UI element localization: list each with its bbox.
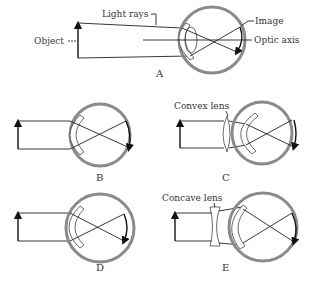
object-label: Object [34, 36, 64, 46]
lens-ray-bottom [229, 145, 246, 148]
cornea [241, 113, 258, 154]
concave-lens-leader-line [214, 203, 215, 207]
light-ray-top [78, 23, 182, 28]
panel-b-label: B [96, 172, 103, 183]
light-ray-bottom [78, 56, 190, 58]
convex-lens-label: Convex lens [174, 101, 229, 111]
refracted-ray-2 [243, 213, 292, 243]
refracted-ray-1 [246, 124, 294, 147]
panel-d: D [18, 194, 134, 273]
panel-a-label: A [155, 68, 164, 79]
panel-c-label: C [222, 172, 230, 183]
refracted-ray-2 [246, 120, 292, 145]
panel-c: Convex lens C [174, 101, 296, 183]
panel-b: B [18, 104, 130, 183]
lens-ray-top [229, 121, 246, 124]
light-rays-label: Light rays [102, 9, 149, 19]
image-arrow-icon [294, 120, 296, 147]
panel-a: Object Light rays Image Optic axis A [34, 7, 300, 79]
panel-e-label: E [222, 262, 229, 273]
eyeball [66, 194, 134, 262]
eyeball [229, 193, 297, 261]
concave-lens-label: Concave lens [162, 193, 223, 203]
image-arrow-icon [237, 27, 242, 52]
refracted-ray-1 [243, 209, 294, 242]
optic-axis-label: Optic axis [254, 35, 300, 45]
light-rays-leader-line [151, 14, 156, 25]
refracted-ray-2 [190, 27, 240, 56]
panel-d-label: D [96, 262, 104, 273]
image-label: Image [255, 16, 284, 26]
eyeball [70, 104, 130, 166]
concave-lens [210, 207, 220, 246]
image-arrow-icon [124, 214, 127, 241]
panel-e: Concave lens E [162, 193, 297, 273]
eye-optics-diagram: Object Light rays Image Optic axis A [0, 0, 316, 283]
